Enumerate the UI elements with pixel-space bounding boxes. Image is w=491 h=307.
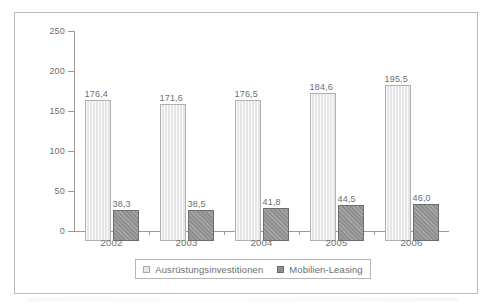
y-tick-label: 250 [49,26,65,36]
y-tick-label: 150 [49,106,65,116]
bar-group: 176,438,3 [74,41,149,241]
bar-value-label: 46,0 [413,193,431,203]
bar-ausruestungsinvestitionen[interactable]: 176,5 [235,100,261,241]
x-tick-label-2002: 2002 [74,237,149,248]
dark-square-icon [277,266,284,273]
y-tick-label: 50 [55,186,65,196]
bar-mobilien-leasing[interactable]: 44,5 [338,205,364,241]
x-tick-label-2006: 2006 [374,237,449,248]
bar-group: 176,541,8 [224,41,299,241]
legend-label-mobilien-leasing: Mobilien-Leasing [289,264,362,275]
bar-value-label: 195,5 [385,74,409,84]
scan-artifact [28,298,458,301]
chart-screenshot: 050100150200250 176,438,3171,638,5176,54… [0,0,491,307]
y-tick-mark [68,31,74,32]
legend-entry-mobilien-leasing[interactable]: Mobilien-Leasing [277,264,362,275]
legend-entry-ausruestungsinvestitionen[interactable]: Ausrüstungsinvestitionen [143,264,263,275]
bar-value-label: 38,3 [113,199,131,209]
y-tick-label: 0 [60,226,65,236]
x-tick-label-2004: 2004 [224,237,299,248]
bar-group: 184,644,5 [299,41,374,241]
bar-ausruestungsinvestitionen[interactable]: 176,4 [85,100,111,241]
bar-group: 171,638,5 [149,41,224,241]
bar-ausruestungsinvestitionen[interactable]: 171,6 [160,104,186,241]
y-tick-label: 100 [49,146,65,156]
chart-legend: Ausrüstungsinvestitionen Mobilien-Leasin… [135,259,371,279]
bar-value-label: 41,8 [263,197,281,207]
bar-group: 195,546,0 [374,41,449,241]
bar-mobilien-leasing[interactable]: 46,0 [413,204,439,241]
y-tick-label: 200 [49,66,65,76]
bar-value-label: 38,5 [188,199,206,209]
x-tick-label-2005: 2005 [299,237,374,248]
bar-ausruestungsinvestitionen[interactable]: 195,5 [385,85,411,241]
bar-value-label: 184,6 [310,82,334,92]
bar-value-label: 176,4 [85,89,109,99]
light-square-icon [143,266,150,273]
figure-frame: 050100150200250 176,438,3171,638,5176,54… [14,12,478,294]
plot-area: 050100150200250 176,438,3171,638,5176,54… [74,31,449,241]
bar-value-label: 171,6 [160,93,184,103]
bar-value-label: 176,5 [235,89,259,99]
bar-value-label: 44,5 [338,194,356,204]
bar-ausruestungsinvestitionen[interactable]: 184,6 [310,93,336,241]
legend-label-ausruestungsinvestitionen: Ausrüstungsinvestitionen [155,264,263,275]
bar-mobilien-leasing[interactable]: 41,8 [263,208,289,241]
x-tick-label-2003: 2003 [149,237,224,248]
